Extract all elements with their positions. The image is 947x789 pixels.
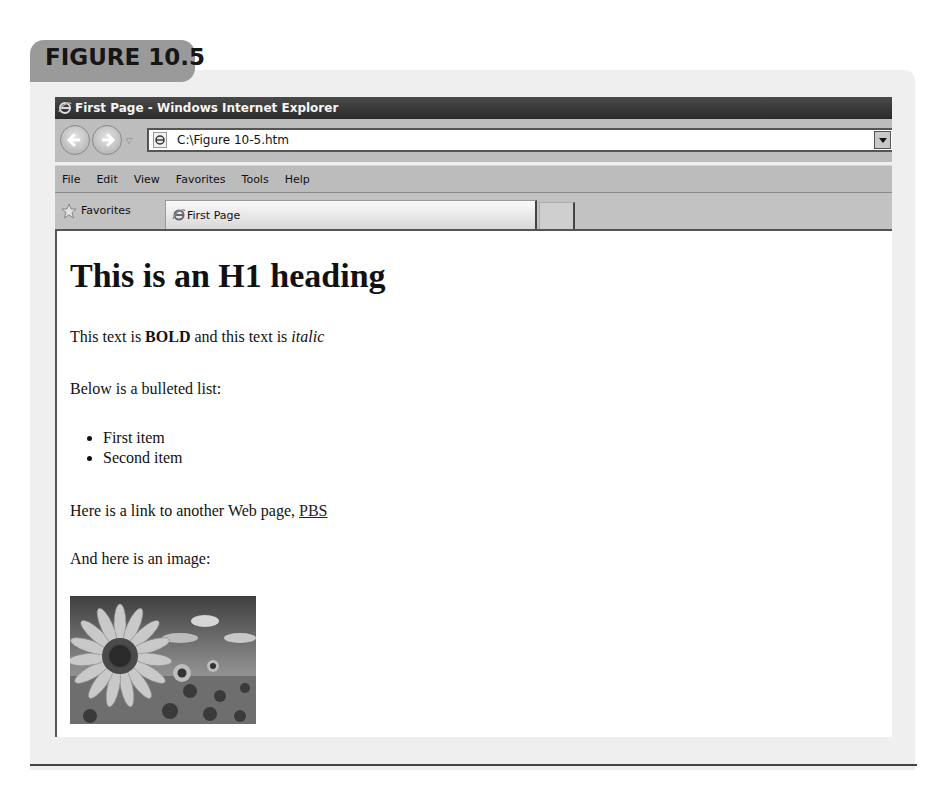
menu-bar: File Edit View Favorites Tools Help — [55, 165, 892, 193]
menu-favorites[interactable]: Favorites — [169, 173, 233, 186]
paragraph-list-intro: Below is a bulleted list: — [70, 381, 221, 397]
menu-file[interactable]: File — [55, 173, 87, 186]
paragraph-image-intro: And here is an image: — [70, 551, 210, 567]
text: and this text is — [190, 328, 291, 345]
new-tab-button[interactable] — [539, 202, 575, 229]
favorites-button[interactable]: Favorites — [81, 204, 131, 217]
menu-edit[interactable]: Edit — [89, 173, 124, 186]
dropdown-arrow-icon — [879, 138, 887, 143]
text: This text is — [70, 328, 145, 345]
menu-help[interactable]: Help — [278, 173, 317, 186]
star-icon[interactable] — [61, 203, 77, 219]
address-dropdown-button[interactable] — [874, 131, 891, 149]
paragraph-link: Here is a link to another Web page, PBS — [70, 503, 327, 519]
figure-label: FIGURE 10.5 — [45, 44, 205, 70]
paragraph-formatting: This text is BOLD and this text is itali… — [70, 329, 324, 345]
menu-view[interactable]: View — [127, 173, 167, 186]
back-arrow-icon — [61, 126, 89, 154]
italic-text: italic — [291, 328, 324, 345]
menu-tools[interactable]: Tools — [235, 173, 276, 186]
back-button[interactable] — [60, 125, 90, 155]
tab-first-page[interactable]: First Page — [165, 200, 537, 229]
title-bar: First Page - Windows Internet Explorer — [55, 97, 892, 119]
ie-logo-icon — [172, 208, 186, 222]
forward-button[interactable] — [92, 125, 122, 155]
figure-bottom-rule — [30, 764, 917, 766]
favorites-tab-bar: Favorites First Page — [55, 193, 892, 231]
sunflower-image — [70, 596, 256, 724]
pbs-link[interactable]: PBS — [299, 502, 327, 519]
window-title: First Page - Windows Internet Explorer — [75, 101, 338, 115]
bulleted-list: First item Second item — [87, 428, 183, 468]
list-item: Second item — [87, 448, 183, 468]
page-heading: This is an H1 heading — [70, 259, 386, 293]
page-content: This is an H1 heading This text is BOLD … — [55, 231, 892, 737]
address-input[interactable]: C:\Figure 10-5.htm — [147, 128, 892, 152]
ie-page-icon — [153, 132, 167, 148]
browser-window: First Page - Windows Internet Explorer ▽… — [55, 97, 892, 737]
ie-logo-icon — [58, 101, 72, 115]
list-item: First item — [87, 428, 183, 448]
recent-pages-chevron-down-icon[interactable]: ▽ — [126, 136, 132, 145]
text: Here is a link to another Web page, — [70, 502, 299, 519]
sunflower-photo — [70, 596, 256, 724]
tab-label: First Page — [187, 209, 240, 222]
address-url: C:\Figure 10-5.htm — [177, 133, 289, 147]
bold-text: BOLD — [145, 328, 190, 345]
forward-arrow-icon — [93, 126, 121, 154]
address-bar-row: ▽ C:\Figure 10-5.htm — [55, 119, 892, 162]
